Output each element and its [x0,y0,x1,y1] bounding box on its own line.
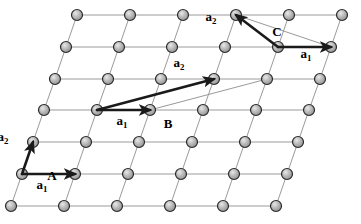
lattice-point [218,201,229,212]
vector-label-a2-cell-b: a2 [174,56,185,72]
lattice-point [165,201,176,212]
lattice-point [282,169,293,180]
lattice-point [187,137,198,148]
vector-subscript: 2 [4,136,8,146]
lattice-point [178,10,189,21]
cell-label-a: A [47,169,56,182]
vector-subscript: 2 [212,16,216,26]
lattice-point [134,137,145,148]
lattice-point [251,105,262,116]
lattice-point [114,42,125,53]
vector-subscript: 1 [43,184,47,194]
lattice-point [315,74,326,85]
vector-label-a1-cell-b: a1 [117,114,128,130]
vector-label-a2-cell-c: a2 [206,10,217,26]
cell-label-b: B [164,117,173,130]
lattice-point [61,42,72,53]
lattice-point [6,201,17,212]
lattice-point [304,105,315,116]
vector-subscript: 2 [180,62,184,72]
vector-label-a1-cell-c: a1 [301,47,312,63]
lattice-canvas [0,0,361,224]
vector-a2-cell-b [97,79,214,110]
lattice-point [240,137,251,148]
lattice-point [59,201,70,212]
lattice-point [123,169,134,180]
lattice-point [198,105,209,116]
lattice-point [125,10,136,21]
vector-subscript: 1 [123,120,127,130]
lattice-point [229,169,240,180]
lattice-point [81,137,92,148]
lattice-point [262,74,273,85]
lattice-point [103,74,114,85]
vector-label-a2-cell-a: a2 [0,130,8,146]
cell-label-c: C [272,25,281,38]
lattice-point [156,74,167,85]
lattice-point [39,105,50,116]
lattice-point [284,10,295,21]
vector-a2-cell-a [22,142,33,174]
lattice-point [220,42,231,53]
lattice-point [167,42,178,53]
lattice-point [293,137,304,148]
lattice-point [72,10,83,21]
lattice-point [337,10,348,21]
lattice-point [271,201,282,212]
lattice-point [112,201,123,212]
vector-subscript: 1 [307,53,311,63]
vector-label-a1-cell-a: a1 [37,178,48,194]
lattice-point [176,169,187,180]
lattice-point [50,74,61,85]
lattice-figure: A B C a1 a2 a1 a2 a1 a2 [0,0,361,224]
